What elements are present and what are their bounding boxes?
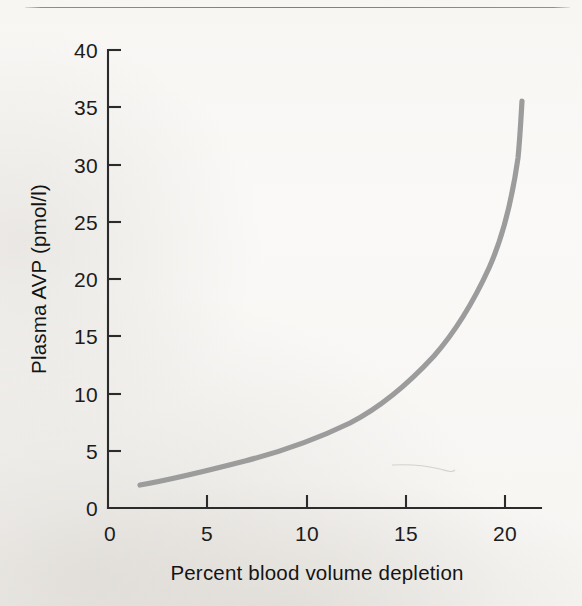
y-axis-tick-labels: 40 35 30 25 20 15 10 5 0 bbox=[74, 39, 98, 520]
x-axis-ticks bbox=[207, 495, 505, 508]
y-tick-label-25: 25 bbox=[74, 211, 98, 234]
y-tick-label-40: 40 bbox=[74, 39, 98, 62]
scan-smudge bbox=[392, 465, 455, 472]
avp-depletion-curve bbox=[140, 101, 522, 485]
y-tick-label-35: 35 bbox=[74, 96, 98, 119]
x-tick-label-5: 5 bbox=[201, 522, 213, 545]
y-tick-label-0: 0 bbox=[86, 497, 98, 520]
x-tick-label-0: 0 bbox=[104, 522, 116, 545]
y-tick-label-15: 15 bbox=[74, 325, 98, 348]
chart-plot-area: 40 35 30 25 20 15 10 5 0 0 5 10 15 20 Pl… bbox=[0, 0, 582, 606]
x-tick-label-20: 20 bbox=[493, 522, 517, 545]
x-tick-label-15: 15 bbox=[394, 522, 418, 545]
y-tick-label-5: 5 bbox=[86, 440, 98, 463]
y-tick-label-30: 30 bbox=[74, 154, 98, 177]
x-axis-tick-labels: 0 5 10 15 20 bbox=[104, 522, 517, 545]
y-tick-label-10: 10 bbox=[74, 383, 98, 406]
y-axis-ticks bbox=[108, 50, 121, 451]
y-tick-label-20: 20 bbox=[74, 268, 98, 291]
x-tick-label-10: 10 bbox=[295, 522, 319, 545]
x-axis-title: Percent blood volume depletion bbox=[170, 561, 463, 584]
y-axis-title: Plasma AVP (pmol/l) bbox=[27, 184, 50, 374]
